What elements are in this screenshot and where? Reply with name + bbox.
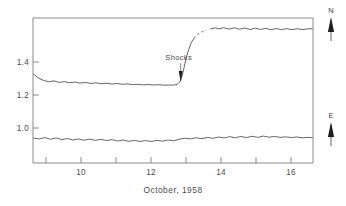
y-tick-label-1-0: 1.0 <box>17 124 29 133</box>
up-arrow-icon <box>328 17 334 41</box>
chart-canvas: 1.4 1.2 1.0 10 12 14 16 <box>0 0 346 206</box>
x-tick-label-16: 16 <box>286 168 296 177</box>
plot-frame <box>33 18 313 163</box>
x-axis-ticks <box>46 157 291 163</box>
shocks-annotation-label: Shocks <box>165 53 192 62</box>
x-tick-label-14: 14 <box>216 168 226 177</box>
x-axis-caption: October, 1958 <box>143 185 202 195</box>
x-tick-label-12: 12 <box>146 168 156 177</box>
east-component-marker: E <box>328 111 334 146</box>
trace-north-dashed-gap <box>194 30 206 38</box>
up-arrow-icon <box>328 122 334 146</box>
data-traces <box>34 28 313 142</box>
y-axis-tick-labels: 1.4 1.2 1.0 <box>17 58 29 133</box>
north-component-marker: N <box>328 6 334 41</box>
north-marker-label: N <box>328 6 334 15</box>
y-tick-label-1-4: 1.4 <box>17 58 29 67</box>
y-axis-ticks <box>33 62 39 128</box>
shocks-annotation: Shocks <box>165 53 192 82</box>
x-tick-label-10: 10 <box>76 168 86 177</box>
east-marker-label: E <box>328 111 333 120</box>
trace-east-component <box>34 136 313 141</box>
x-axis-tick-labels: 10 12 14 16 <box>76 168 296 177</box>
y-tick-label-1-2: 1.2 <box>17 91 29 100</box>
magnetogram-figure: 1.4 1.2 1.0 10 12 14 16 <box>0 0 346 206</box>
trace-north-component <box>211 28 312 30</box>
